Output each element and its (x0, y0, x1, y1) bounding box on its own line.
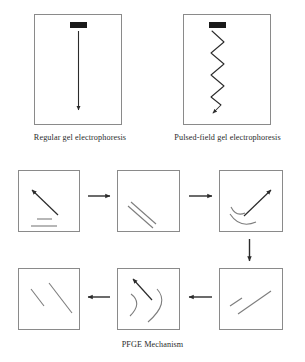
mechanism-step-6-box (18, 268, 80, 330)
mechanism-step-1-box (18, 170, 80, 232)
pulsed-field-gel-caption: Pulsed-field gel electrophoresis (150, 133, 305, 142)
pulsed-field-gel-panel (183, 14, 271, 125)
pulsed-field-gel-well (209, 22, 226, 28)
mechanism-step-4-box (219, 268, 283, 330)
mechanism-step-2-box (117, 170, 180, 232)
regular-gel-panel (34, 14, 122, 125)
regular-gel-caption: Regular gel electrophoresis (0, 133, 160, 142)
mechanism-step-3-box (219, 170, 283, 232)
mechanism-step-5-box (117, 268, 180, 330)
pfge-mechanism-caption: PFGE Mechanism (0, 340, 305, 349)
regular-gel-well (70, 22, 87, 28)
pfge-figure: Regular gel electrophoresis Pulsed-field… (0, 0, 305, 362)
